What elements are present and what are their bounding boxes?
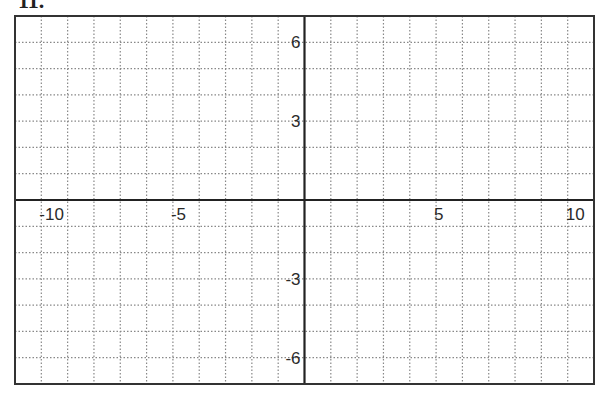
coordinate-grid: -10-551063-3-6 bbox=[0, 0, 597, 408]
x-tick-label: 10 bbox=[566, 205, 585, 224]
x-tick-label: -10 bbox=[39, 205, 64, 224]
x-tick-label: 5 bbox=[434, 205, 443, 224]
y-tick-label: -3 bbox=[285, 270, 300, 289]
y-tick-label: 3 bbox=[291, 112, 300, 131]
x-tick-label: -5 bbox=[171, 205, 186, 224]
y-tick-label: 6 bbox=[291, 33, 300, 52]
y-tick-label: -6 bbox=[285, 349, 300, 368]
